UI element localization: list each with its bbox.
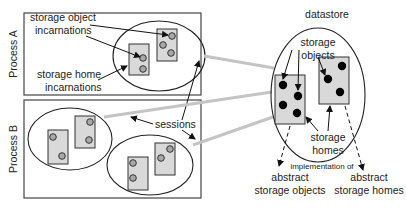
session-line bbox=[193, 117, 273, 145]
process-a-label: Process A bbox=[7, 30, 19, 77]
datastore: datastore storage objects storage homes … bbox=[254, 8, 403, 196]
storage-object bbox=[324, 75, 332, 83]
dashed-arrow bbox=[279, 126, 290, 166]
storage-object-incarnation bbox=[59, 153, 66, 160]
storage-object-incarnation bbox=[130, 175, 137, 182]
label-storage-objects-2: objects bbox=[301, 49, 334, 61]
session-line bbox=[204, 56, 274, 68]
label-storage-homes-1: storage bbox=[310, 131, 345, 143]
storage-object bbox=[338, 62, 346, 70]
label-abstract-storage-objects-2: storage objects bbox=[254, 184, 325, 196]
label-storage-objects-1: storage bbox=[300, 36, 335, 48]
storage-object bbox=[293, 109, 301, 117]
storage-architecture-diagram: Process A storage object incarnations st… bbox=[0, 0, 406, 208]
storage-object bbox=[279, 101, 287, 109]
storage-object-incarnation bbox=[50, 134, 57, 141]
label-storage-object-incarnations-1: storage object bbox=[30, 11, 96, 23]
label-abstract-storage-homes-2: storage homes bbox=[334, 184, 403, 196]
storage-object-incarnation bbox=[160, 42, 167, 49]
storage-object-incarnation bbox=[168, 50, 175, 57]
storage-object-incarnation bbox=[86, 137, 93, 144]
datastore-label: datastore bbox=[305, 8, 349, 20]
storage-object-incarnation bbox=[87, 119, 94, 126]
storage-object bbox=[336, 88, 344, 96]
label-abstract-storage-objects-1: abstract bbox=[271, 171, 308, 183]
storage-object bbox=[294, 92, 302, 100]
label-sessions: sessions bbox=[155, 118, 196, 130]
label-storage-homes-2: homes bbox=[312, 144, 344, 156]
label-storage-home-incarnations-2: incarnations bbox=[45, 81, 102, 93]
label-implementation-of: implementation of bbox=[290, 162, 354, 171]
process-a: Process A storage object incarnations st… bbox=[7, 11, 205, 95]
storage-home bbox=[275, 75, 305, 124]
storage-object bbox=[279, 81, 287, 89]
storage-object-incarnation bbox=[140, 55, 147, 62]
label-storage-home-incarnations-1: storage home bbox=[37, 68, 101, 80]
storage-object-incarnation bbox=[140, 66, 147, 73]
arrow bbox=[306, 117, 318, 131]
label-abstract-storage-homes-1: abstract bbox=[350, 171, 387, 183]
storage-object-incarnation bbox=[167, 146, 174, 153]
label-storage-object-incarnations-2: incarnations bbox=[35, 24, 92, 36]
storage-object-incarnation bbox=[169, 33, 176, 40]
arrow bbox=[328, 106, 330, 131]
storage-object-incarnation bbox=[130, 160, 137, 167]
process-b-label: Process B bbox=[7, 125, 19, 173]
storage-object-incarnation bbox=[158, 155, 165, 162]
